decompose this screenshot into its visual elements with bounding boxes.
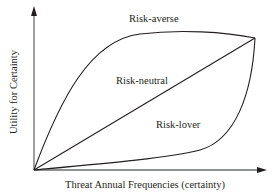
risk-neutral-line <box>34 38 255 170</box>
y-axis-arrow-icon <box>31 6 37 16</box>
y-axis-label: Utility for Certainty <box>9 50 20 134</box>
x-axis-label: Threat Annual Frequencies (certainty) <box>0 180 280 191</box>
risk-averse-curve <box>34 31 255 170</box>
diagram-canvas <box>0 0 280 196</box>
x-axis <box>34 167 267 173</box>
risk-lover-label: Risk-lover <box>156 120 200 131</box>
y-axis <box>31 6 37 170</box>
x-axis-arrow-icon <box>257 167 267 173</box>
utility-curves-diagram: Risk-averse Risk-neutral Risk-lover Thre… <box>0 0 280 196</box>
risk-neutral-label: Risk-neutral <box>116 76 168 87</box>
risk-averse-label: Risk-averse <box>129 14 179 25</box>
